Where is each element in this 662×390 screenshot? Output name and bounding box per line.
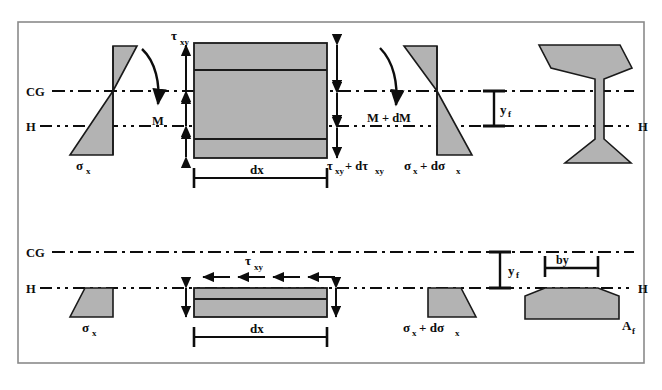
svg-text:x: x	[412, 328, 417, 338]
svg-text:x: x	[92, 328, 97, 338]
svg-text:x: x	[455, 328, 460, 338]
beam-element-top	[194, 43, 327, 158]
dx-label-bottom: dx	[250, 321, 264, 336]
svg-text:+ dσ: + dσ	[420, 158, 445, 173]
svg-text:σ: σ	[76, 158, 83, 173]
h-label-bottom-right: H	[638, 282, 648, 296]
svg-text:τ: τ	[171, 28, 177, 43]
by-label: by	[556, 253, 569, 267]
svg-text:x: x	[413, 166, 418, 176]
svg-text:σ: σ	[404, 158, 411, 173]
cg-label-top: CG	[26, 85, 45, 99]
svg-text:xy: xy	[254, 262, 264, 272]
dx-label-top: dx	[250, 162, 264, 177]
svg-text:A: A	[622, 318, 632, 333]
flange-element-bottom	[194, 288, 327, 317]
svg-text:+ dτ: + dτ	[345, 159, 368, 173]
cg-label-bottom: CG	[26, 246, 45, 260]
h-label-top-right: H	[638, 120, 648, 134]
flange-area-af	[525, 288, 619, 319]
figure-root: CG H H σ x M τ xy	[0, 0, 662, 390]
svg-text:x: x	[456, 166, 461, 176]
h-label-bottom-left: H	[26, 282, 36, 296]
svg-text:y: y	[508, 263, 515, 278]
svg-text:xy: xy	[375, 166, 385, 176]
svg-text:xy: xy	[335, 166, 345, 176]
svg-text:τ: τ	[245, 253, 251, 268]
beam-shear-diagram: CG H H σ x M τ xy	[0, 0, 662, 390]
svg-text:+ dσ: + dσ	[419, 320, 444, 335]
svg-text:y: y	[500, 102, 507, 117]
h-label-top-left: H	[26, 120, 36, 134]
moment-label-right: M + dM	[367, 111, 411, 125]
svg-text:σ: σ	[403, 320, 410, 335]
moment-label-left: M	[152, 114, 164, 128]
svg-text:x: x	[86, 166, 91, 176]
svg-text:σ: σ	[82, 320, 89, 335]
svg-text:xy: xy	[180, 37, 190, 47]
